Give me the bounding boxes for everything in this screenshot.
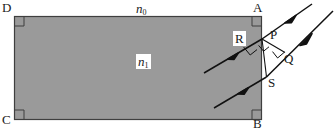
label-q: Q xyxy=(284,52,293,65)
exit-ray-lower-arrowhead xyxy=(300,34,312,46)
label-p: P xyxy=(270,28,277,41)
label-r: R xyxy=(233,31,246,46)
exit-ray-lower xyxy=(267,11,334,77)
label-corner-b: B xyxy=(253,117,262,130)
label-n1: n1 xyxy=(136,54,151,69)
label-n0: n0 xyxy=(136,2,147,15)
label-s: S xyxy=(268,76,275,89)
label-corner-c: C xyxy=(2,113,11,126)
label-corner-a: A xyxy=(253,1,262,14)
right-angle-mark-q xyxy=(273,52,285,58)
wavefront-ps-segment xyxy=(262,39,267,77)
exit-ray-upper-arrowhead xyxy=(285,15,296,23)
label-corner-d: D xyxy=(2,1,11,14)
figure-canvas xyxy=(0,0,334,132)
refraction-figure: n0 n1 R P Q S A B C D xyxy=(0,0,334,132)
